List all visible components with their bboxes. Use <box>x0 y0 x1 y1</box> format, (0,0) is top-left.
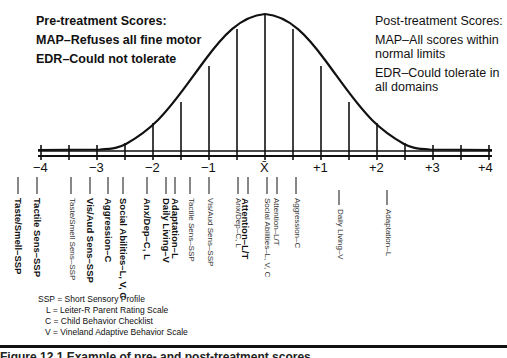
score-label: Anx/Dep–C, L <box>142 198 152 260</box>
tick-label-mean: X̄ <box>260 160 269 175</box>
tick-label-pos3: +3 <box>425 160 440 175</box>
score-label: Anx/Dep–C, L <box>233 198 243 248</box>
score-label: Adaptation–L <box>383 209 393 256</box>
post-treatment-edr: EDR–Could tolerate in all domains <box>375 66 507 94</box>
score-label: Vis/Aud Sens–SSP <box>85 198 95 283</box>
score-label: Tactile Sens–SSP <box>32 198 42 277</box>
score-label: Adaptation–L <box>170 198 180 259</box>
legend-v: V = Vineland Adaptive Behavior Scale <box>38 327 188 338</box>
score-label: Social Abilities–L, V, C <box>118 198 128 299</box>
tick-label-pos1: +1 <box>313 160 328 175</box>
score-label: Attention–L/T <box>271 198 281 246</box>
pre-treatment-map: MAP–Refuses all fine motor <box>36 33 201 47</box>
figure-caption: Figure 12.1 Example of pre- and post-tre… <box>0 349 311 358</box>
abbreviation-legend: SSP = Short Sensory Profile L = Leiter-R… <box>38 294 188 338</box>
tick-label-neg2: −2 <box>145 160 160 175</box>
tick-label-neg4: −4 <box>33 160 48 175</box>
pre-treatment-title: Pre-treatment Scores: <box>36 14 201 28</box>
score-label: Taste/Smell–SSP <box>13 198 23 274</box>
legend-c: C = Child Behavior Checklist <box>38 316 188 327</box>
score-label: Vis/Aud Sens–SSP <box>205 198 215 266</box>
post-treatment-map: MAP–All scores within normal limits <box>375 33 507 61</box>
pre-treatment-scores: Pre-treatment Scores: MAP–Refuses all fi… <box>36 14 201 71</box>
score-label: Tactile Sens–SSP <box>186 198 196 262</box>
tick-label-pos2: +2 <box>369 160 384 175</box>
pre-treatment-edr: EDR–Could not tolerate <box>36 52 201 66</box>
post-treatment-title: Post-treatment Scores: <box>375 14 507 28</box>
tick-label-neg3: −3 <box>89 160 104 175</box>
score-label: Aggression–C <box>103 198 113 262</box>
tick-label-pos4: +4 <box>478 160 493 175</box>
caption-divider <box>0 345 507 348</box>
score-label: Taste/Smell Sens–SSP <box>67 198 77 280</box>
score-label: Daily Living–V <box>335 209 345 260</box>
tick-label-neg1: −1 <box>201 160 216 175</box>
legend-l: L = Leiter-R Parent Rating Scale <box>38 305 188 316</box>
legend-ssp: SSP = Short Sensory Profile <box>38 294 188 305</box>
score-label: Aggression–C <box>292 198 302 248</box>
post-treatment-scores: Post-treatment Scores: MAP–All scores wi… <box>375 14 507 99</box>
